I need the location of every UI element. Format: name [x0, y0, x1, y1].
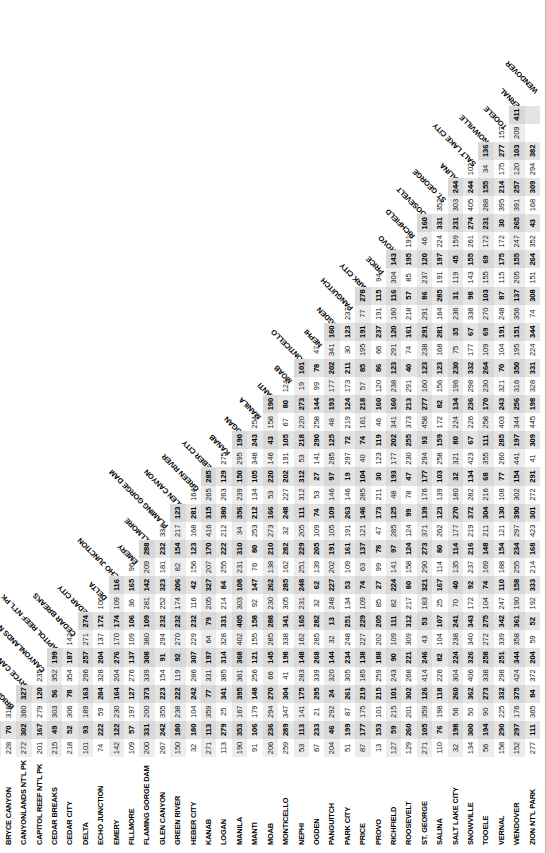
row-header-label: EMERY [109, 757, 124, 845]
matrix-cell: 238 [417, 341, 432, 359]
matrix-cell: 284 [93, 685, 108, 703]
matrix-cell: 97 [386, 540, 401, 558]
matrix-cell: 141 [386, 558, 401, 576]
matrix-cell: 232 [155, 540, 170, 558]
matrix-cell: 327 [201, 576, 216, 594]
matrix-cell: 59 [93, 703, 108, 721]
matrix-cell: 260 [494, 449, 509, 467]
matrix-cell: 47 [309, 341, 324, 359]
matrix-cell: 86 [417, 287, 432, 305]
matrix-cell: 31 [448, 287, 463, 305]
matrix-cell: 120 [509, 160, 524, 178]
matrix-cell: 331 [216, 612, 231, 630]
matrix-cell: 84 [525, 685, 540, 703]
table-row: MONTICELLO259289347304411983383413052851… [278, 88, 293, 845]
matrix-cell: 165 [124, 576, 139, 594]
matrix-cell: 291 [525, 468, 540, 486]
matrix-cell: 125 [324, 431, 339, 449]
table-row: SALINA1107619811822682104107251671148026… [432, 88, 447, 845]
matrix-cell: 32 [309, 594, 324, 612]
matrix-cell: 229 [294, 540, 309, 558]
matrix-cell: 175 [294, 685, 309, 703]
matrix-cell: 106 [93, 594, 108, 612]
matrix-cell: 106 [247, 721, 262, 739]
matrix-cell: 101 [371, 703, 386, 721]
matrix-cell: 219 [463, 522, 478, 540]
matrix-cell: 75 [448, 341, 463, 359]
matrix-cell: 91 [155, 648, 170, 666]
matrix-cell: 155 [463, 250, 478, 268]
matrix-cell: 124 [340, 395, 355, 413]
matrix-cell: 113 [294, 721, 309, 739]
matrix-cell: 300 [463, 721, 478, 739]
matrix-cell: 69 [478, 250, 493, 268]
matrix-cell: 121 [247, 648, 262, 666]
matrix-cell: 296 [78, 667, 93, 685]
matrix-cell: 291 [417, 305, 432, 323]
matrix-cell: 258 [432, 449, 447, 467]
matrix-cell: 303 [232, 594, 247, 612]
matrix-cell: 316 [1, 703, 16, 721]
matrix-cell: 416 [201, 522, 216, 540]
matrix-cell: 110 [432, 739, 447, 757]
matrix-cell: 141 [309, 449, 324, 467]
matrix-cell: 74 [355, 431, 370, 449]
table-row: PANGUITCH2044629224320144321324822720219… [324, 88, 339, 845]
matrix-cell: 177 [324, 377, 339, 395]
matrix-cell: 43 [263, 431, 278, 449]
row-header-label: GLEN CANYON [155, 757, 170, 845]
matrix-cell: 78 [371, 540, 386, 558]
row-header-label: VERNAL [494, 757, 509, 845]
matrix-cell: 109 [124, 739, 139, 757]
matrix-cell: 82 [432, 648, 447, 666]
matrix-cell: 248 [494, 305, 509, 323]
matrix-cell: 288 [478, 196, 493, 214]
matrix-cell: 375 [509, 685, 524, 703]
matrix-cell: 403 [494, 413, 509, 431]
row-header-label: WENDOVER [509, 757, 524, 845]
matrix-cell: 116 [109, 576, 124, 594]
matrix-cell: 137 [93, 630, 108, 648]
matrix-cell: 290 [494, 721, 509, 739]
matrix-cell: 273 [294, 395, 309, 413]
matrix-cell: 191 [355, 323, 370, 341]
table-row: CANYONLANDS NT'L PK272302360327 [16, 88, 31, 845]
matrix-cell: 230 [401, 449, 416, 467]
matrix-cell: 91 [247, 739, 262, 757]
matrix-cell: 237 [371, 323, 386, 341]
matrix-cell: 169 [478, 558, 493, 576]
matrix-cell: 172 [463, 594, 478, 612]
matrix-cell: 105 [278, 431, 293, 449]
matrix-cell: 360 [16, 703, 31, 721]
matrix-cell: 314 [216, 648, 231, 666]
matrix-cell: 309 [401, 630, 416, 648]
matrix-cell: 92 [463, 576, 478, 594]
matrix-cell: 205 [294, 522, 309, 540]
matrix-cell: 200 [139, 703, 154, 721]
matrix-cell: 382 [525, 142, 540, 160]
matrix-cell: 109 [478, 341, 493, 359]
matrix-cell: 167 [32, 721, 47, 739]
matrix-cell: 109 [386, 630, 401, 648]
matrix-cell: 304 [478, 504, 493, 522]
matrix-cell: 139 [309, 558, 324, 576]
matrix-cell: 234 [340, 648, 355, 666]
matrix-cell: 113 [201, 721, 216, 739]
matrix-cell: 174 [170, 594, 185, 612]
matrix-cell: 304 [278, 685, 293, 703]
matrix-cell: 85 [355, 359, 370, 377]
matrix-cell: 211 [478, 522, 493, 540]
matrix-cell: 134 [448, 395, 463, 413]
table-row: HEBER CITY321801042422863072292321164215… [186, 88, 201, 845]
matrix-cell: 191 [401, 232, 416, 250]
matrix-cell: 122 [109, 721, 124, 739]
table-row: GREEN RIVER15018023822211992270232174206… [170, 88, 185, 845]
matrix-cell: 172 [93, 612, 108, 630]
matrix-cell: 156 [186, 558, 201, 576]
matrix-cell: 262 [263, 576, 278, 594]
matrix-cell: 123 [340, 323, 355, 341]
matrix-cell: 204 [525, 648, 540, 666]
matrix-cell: 30 [494, 214, 509, 232]
matrix-cell: 339 [494, 630, 509, 648]
matrix-cell: 205 [371, 612, 386, 630]
